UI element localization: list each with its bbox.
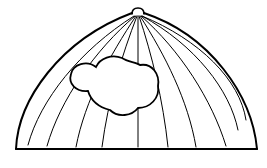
dome-illustration: Line drawing of a dome with meridian lin… xyxy=(0,0,267,168)
top-knob xyxy=(132,8,144,14)
cloud xyxy=(70,56,158,115)
dome-drawing xyxy=(0,0,267,168)
